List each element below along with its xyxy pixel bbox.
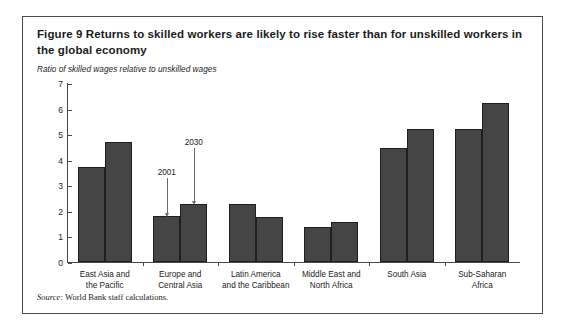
bar-group xyxy=(143,83,219,262)
bar-2030 xyxy=(331,222,358,262)
category-label-line: Central Asia xyxy=(158,280,202,291)
category-label-line: Latin America xyxy=(222,269,289,280)
x-axis-category-label: Latin Americaand the Caribbean xyxy=(222,269,289,291)
bar-group xyxy=(445,83,521,262)
bar-2001 xyxy=(153,216,180,262)
bar-2030 xyxy=(180,204,207,262)
annotation-leader-line xyxy=(167,178,168,213)
figure-title: Figure 9 Returns to skilled workers are … xyxy=(37,27,524,58)
bar-2001 xyxy=(380,148,407,262)
x-axis-category-label: South Asia xyxy=(387,269,426,280)
bar-2030 xyxy=(256,217,283,262)
bar-pair xyxy=(304,83,358,262)
y-tick-label: 3 xyxy=(58,181,63,191)
y-tick-label: 5 xyxy=(58,130,63,140)
category-label-line: Sub-Saharan xyxy=(458,269,506,280)
y-tick-mark xyxy=(68,263,72,264)
x-axis-group-tick xyxy=(369,262,370,266)
bar-pair xyxy=(229,83,283,262)
bar-2030 xyxy=(105,142,132,262)
x-axis-group-tick xyxy=(294,262,295,266)
bar-group xyxy=(67,83,143,262)
annotation-label-2001: 2001 xyxy=(158,168,176,177)
category-label-line: East Asia and xyxy=(80,269,130,280)
bar-2001 xyxy=(455,129,482,262)
figure-number: Figure 9 xyxy=(37,28,83,40)
x-axis-category-label: East Asia andthe Pacific xyxy=(80,269,130,291)
bar-group xyxy=(294,83,370,262)
x-axis-category-label: Europe andCentral Asia xyxy=(158,269,202,291)
bar-2030 xyxy=(407,129,434,262)
category-label-line: the Pacific xyxy=(80,280,130,291)
y-tick-label: 6 xyxy=(58,105,63,115)
source-note: Source: World Bank staff calculations. xyxy=(37,292,168,302)
chart-subtitle: Ratio of skilled wages relative to unski… xyxy=(37,65,217,74)
x-axis-group-tick xyxy=(218,262,219,266)
bar-2001 xyxy=(78,167,105,262)
category-label-line: Europe and xyxy=(158,269,202,280)
bar-pair xyxy=(455,83,509,262)
bar-2001 xyxy=(304,227,331,262)
bar-pair xyxy=(78,83,132,262)
category-label-line: Middle East and xyxy=(302,269,361,280)
bar-2030 xyxy=(482,103,509,262)
annotation-leader-line xyxy=(194,148,195,201)
bar-group xyxy=(218,83,294,262)
bar-2001 xyxy=(229,204,256,262)
source-label: Source: xyxy=(37,292,63,302)
category-label-line: North Africa xyxy=(302,280,361,291)
annotation-arrowhead xyxy=(192,201,196,205)
annotation-label-2030: 2030 xyxy=(185,138,203,147)
category-label-line: and the Caribbean xyxy=(222,280,289,291)
figure-title-text: Returns to skilled workers are likely to… xyxy=(37,28,522,56)
y-tick-label: 7 xyxy=(58,79,63,89)
x-axis-category-label: Sub-SaharanAfrica xyxy=(458,269,506,291)
y-tick-label: 0 xyxy=(58,258,63,268)
y-tick-label: 1 xyxy=(58,232,63,242)
y-tick-label: 4 xyxy=(58,156,63,166)
y-tick-label: 2 xyxy=(58,207,63,217)
category-label-line: South Asia xyxy=(387,269,426,280)
x-axis-group-tick xyxy=(143,262,144,266)
figure-container: Figure 9 Returns to skilled workers are … xyxy=(22,16,543,314)
bar-pair xyxy=(380,83,434,262)
category-label-line: Africa xyxy=(458,280,506,291)
annotation-arrowhead xyxy=(165,213,169,217)
x-axis-category-label: Middle East andNorth Africa xyxy=(302,269,361,291)
bar-group xyxy=(369,83,445,262)
x-axis-group-tick xyxy=(445,262,446,266)
chart-plot-area: 01234567 20012030 East Asia andthe Pacif… xyxy=(67,83,520,263)
source-text: World Bank staff calculations. xyxy=(65,292,168,302)
